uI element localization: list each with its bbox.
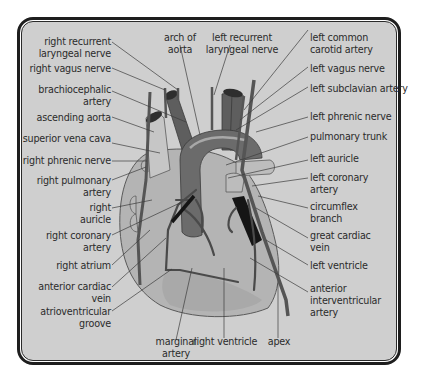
label-atrioventricular-groove: atrioventricular groove: [40, 306, 111, 330]
label-apex: apex: [264, 336, 294, 348]
label-right-recurrent-laryngeal-nerve: right recurrent laryngeal nerve: [39, 36, 111, 60]
label-left-subclavian-artery: left subclavian artery: [310, 83, 408, 95]
label-left-coronary-artery: left coronary artery: [310, 172, 368, 196]
label-arch-of-aorta: arch of aorta: [160, 32, 200, 56]
label-right-coronary-artery: right coronary artery: [46, 230, 111, 254]
label-right-ventricle: right ventricle: [190, 336, 260, 348]
label-left-vagus-nerve: left vagus nerve: [310, 63, 385, 75]
label-left-phrenic-nerve: left phrenic nerve: [310, 111, 391, 123]
left-auricle-shape: [226, 173, 244, 192]
label-superior-vena-cava: superior vena cava: [23, 133, 111, 145]
label-ascending-aorta: ascending aorta: [37, 112, 111, 124]
label-right-vagus-nerve: right vagus nerve: [30, 63, 111, 75]
label-pulmonary-trunk: pulmonary trunk: [310, 131, 387, 143]
label-left-recurrent-laryngeal-nerve: left recurrent laryngeal nerve: [202, 32, 282, 56]
label-circumflex-branch: circumflex branch: [310, 201, 358, 225]
label-left-auricle: left auricle: [310, 153, 359, 165]
label-brachiocephalic-artery: brachiocephalic artery: [38, 84, 111, 108]
label-right-phrenic-nerve: right phrenic nerve: [23, 155, 111, 167]
label-anterior-interventricular-artery: anterior interventricular artery: [310, 283, 381, 319]
label-left-common-carotid-artery: left common carotid artery: [310, 32, 373, 56]
label-anterior-cardiac-vein: anterior cardiac vein: [38, 281, 111, 305]
label-right-pulmonary-artery: right pulmonary artery: [37, 175, 111, 199]
label-great-cardiac-vein: great cardiac vein: [310, 230, 371, 254]
label-left-ventricle: left ventricle: [310, 260, 368, 272]
label-right-atrium: right atrium: [56, 260, 111, 272]
label-right-auricle: right auricle: [80, 202, 111, 226]
